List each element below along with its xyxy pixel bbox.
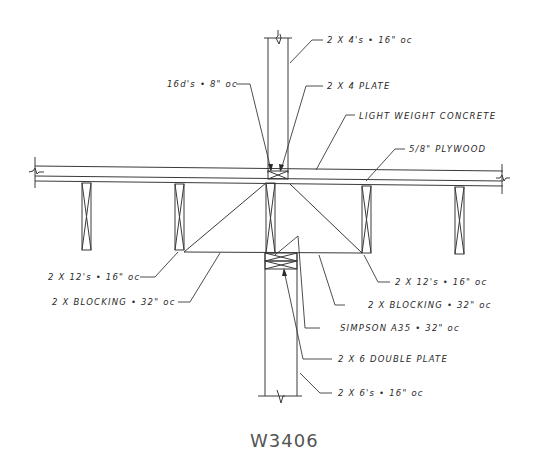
label-top-studs: 2 X 4's • 16" oc [327,35,413,45]
blocking [184,183,362,253]
rim-joist [266,183,275,253]
label-blocking-right: 2 X BLOCKING • 32" oc [368,300,492,310]
label-bottom-studs: 2 X 6's • 16" oc [338,388,424,398]
label-concrete: LIGHT WEIGHT CONCRETE [359,111,496,121]
drawing-id: W3406 [250,430,319,451]
label-joists-left: 2 X 12's • 16" oc [48,272,140,282]
label-plywood: 5/8" PLYWOOD [409,144,486,154]
lower-wall [258,253,302,403]
label-double-plate: 2 X 6 DOUBLE PLATE [338,354,448,364]
label-top-plate: 2 X 4 PLATE [327,81,391,91]
label-clip: SIMPSON A35 • 32" oc [340,323,460,333]
label-joists-right: 2 X 12's • 16" oc [395,277,487,287]
floor-joists [82,183,464,254]
framing-detail-drawing: 2 X 4's • 16" oc 16d's • 8" oc 2 X 4 PLA… [0,0,535,471]
callout-labels: 2 X 4's • 16" oc 16d's • 8" oc 2 X 4 PLA… [48,35,496,451]
label-blocking-left: 2 X BLOCKING • 32" oc [52,297,176,307]
label-nails: 16d's • 8" oc [167,79,238,89]
